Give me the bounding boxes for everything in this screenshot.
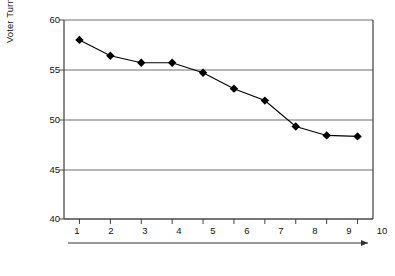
data-point [75,36,83,44]
data-point [106,52,114,60]
plot-area [0,0,395,276]
data-point [353,132,361,140]
chart-container: Voter Turnout (%) 60 55 50 45 40 1 2 3 4… [0,0,395,276]
data-markers [75,36,362,141]
x-axis-direction-arrow [68,240,368,246]
data-point [230,84,238,92]
data-point [322,131,330,139]
gridlines [64,20,373,170]
data-line [79,40,357,137]
x-axis-ticks [79,219,357,224]
data-point [168,59,176,67]
y-axis-ticks [59,20,64,219]
data-point [137,59,145,67]
